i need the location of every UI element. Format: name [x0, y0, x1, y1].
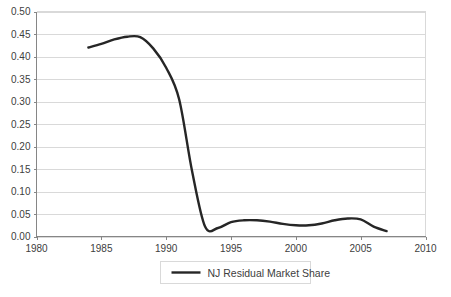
x-axis-tick-labels: 1980198519901995200020052010: [25, 243, 437, 254]
y-tick-label: 0.35: [11, 74, 31, 85]
y-axis-tick-labels: 0.000.050.100.150.200.250.300.350.400.45…: [11, 6, 31, 242]
x-tick-label: 2005: [350, 243, 373, 254]
y-tick-label: 0.00: [11, 231, 31, 242]
legend-label-nj-residual-market-share: NJ Residual Market Share: [208, 267, 331, 279]
x-tick-label: 1980: [25, 243, 48, 254]
y-tick-label: 0.30: [11, 96, 31, 107]
series-line-nj-residual-market-share: [88, 36, 386, 231]
x-tick-label: 1985: [90, 243, 113, 254]
x-tick-label: 2000: [285, 243, 308, 254]
line-chart: 0.000.050.100.150.200.250.300.350.400.45…: [0, 0, 451, 297]
data-series-group: [88, 36, 386, 231]
x-tick-label: 2010: [414, 243, 437, 254]
y-tick-label: 0.25: [11, 119, 31, 130]
y-tick-label: 0.20: [11, 141, 31, 152]
y-tick-label: 0.15: [11, 164, 31, 175]
chart-legend: NJ Residual Market Share: [161, 262, 331, 284]
chart-container: 0.000.050.100.150.200.250.300.350.400.45…: [0, 0, 451, 297]
y-tick-label: 0.45: [11, 29, 31, 40]
x-tick-label: 1995: [220, 243, 243, 254]
x-tick-label: 1990: [155, 243, 178, 254]
y-tick-label: 0.05: [11, 209, 31, 220]
y-tick-label: 0.50: [11, 6, 31, 17]
y-tick-label: 0.40: [11, 51, 31, 62]
y-tick-label: 0.10: [11, 186, 31, 197]
